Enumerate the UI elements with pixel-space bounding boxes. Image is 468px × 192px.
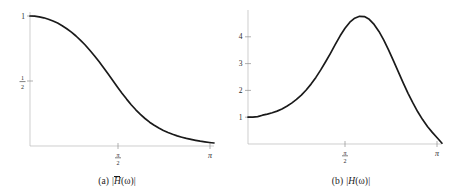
caption-b-label: (b) (332, 176, 343, 186)
caption-a-arg: (ω) (121, 176, 134, 186)
plot-b: 1 2 3 4 π 2 π (234, 0, 468, 166)
subfigure-b: 1 2 3 4 π 2 π (b)|H(ω)| (234, 0, 468, 192)
ytick-label-a-half: 1 2 (20, 75, 26, 89)
svg-text:2: 2 (344, 158, 347, 164)
caption-a-symbol-overbar: H (114, 176, 121, 186)
caption-a-bar-close: | (134, 176, 136, 186)
subfigure-a: 1 1 2 π 2 π (a)|H(ω)| (0, 0, 234, 192)
ytick-label-a-1: 1 (21, 12, 25, 21)
ytick-label-b-1: 1 (239, 113, 243, 122)
caption-a: (a)|H(ω)| (0, 176, 234, 186)
xtick-label-b-pi: π (435, 149, 440, 158)
svg-text:π: π (343, 150, 347, 156)
svg-text:2: 2 (21, 84, 24, 90)
svg-text:1: 1 (21, 75, 24, 81)
caption-b-expr: |H(ω)| (346, 176, 370, 186)
caption-b-bar-close: | (368, 176, 370, 186)
ytick-label-b-3: 3 (239, 59, 243, 68)
xtick-label-a-pi: π (208, 151, 213, 160)
plot-a: 1 1 2 π 2 π (0, 0, 234, 166)
overbar-glyph (114, 176, 119, 177)
caption-b: (b)|H(ω)| (234, 176, 468, 186)
svg-text:2: 2 (117, 160, 120, 166)
ytick-label-b-4: 4 (239, 32, 243, 41)
caption-a-label: (a) (98, 176, 109, 186)
caption-b-arg: (ω) (355, 176, 368, 186)
curve-a (30, 16, 214, 143)
xtick-label-a-pi-over-2: π 2 (115, 152, 121, 166)
plot-a-svg: 1 1 2 π 2 π (0, 0, 234, 166)
figure-row: 1 1 2 π 2 π (a)|H(ω)| (0, 0, 468, 192)
plot-b-svg: 1 2 3 4 π 2 π (234, 0, 468, 166)
caption-a-expr: |H(ω)| (112, 176, 136, 186)
ytick-label-b-2: 2 (239, 86, 243, 95)
xtick-label-b-pi-over-2: π 2 (342, 150, 348, 164)
curve-b (248, 16, 442, 143)
svg-text:π: π (116, 152, 120, 158)
caption-a-symbol: H (114, 176, 121, 186)
